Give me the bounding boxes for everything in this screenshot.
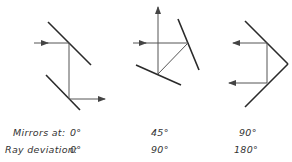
diagram-45-degrees: [133, 7, 199, 85]
ray-deviation-value-3: 180°: [234, 144, 258, 155]
mirrors-at-value-1: 0°: [70, 127, 81, 138]
mirrors-at-label: Mirrors at:: [13, 127, 65, 138]
ray-deviation-value-1: 0°: [70, 144, 81, 155]
diagram-90-degrees: [229, 21, 288, 107]
lower-mirror: [46, 75, 80, 110]
mirrors-at-value-3: 90°: [239, 127, 257, 138]
mirrors-at-value-2: 45°: [151, 127, 169, 138]
diagonal-ray: [158, 43, 188, 74]
right-mirror: [178, 19, 199, 70]
ray-deviation-value-2: 90°: [151, 144, 169, 155]
ray-deviation-label: Ray deviation:: [5, 144, 78, 155]
diagram-0-degrees: [34, 22, 105, 110]
